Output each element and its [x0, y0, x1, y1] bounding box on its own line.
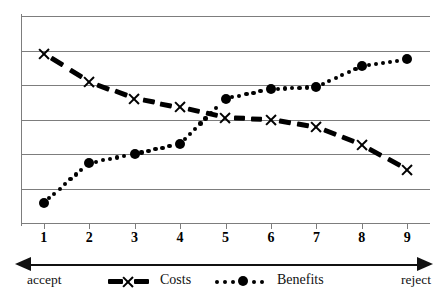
costs-dash: [114, 89, 128, 98]
costs-point-2: [82, 75, 96, 89]
costs-point-4: [173, 100, 187, 114]
plot-area: 123456789: [0, 0, 445, 240]
benefits-line-dot: [193, 127, 197, 131]
benefits-line-dot: [230, 95, 234, 99]
costs-dash: [50, 56, 65, 68]
costs-dash: [251, 116, 263, 122]
reject-label: reject: [401, 272, 431, 288]
benefits-line-dot: [101, 158, 105, 162]
accept-label: accept: [27, 272, 61, 288]
costs-dash: [188, 107, 201, 115]
benefits-point-2: [84, 158, 94, 168]
x-tick-3: [135, 223, 136, 229]
gridline-2: [21, 154, 430, 155]
costs-dash: [160, 101, 172, 108]
benefits-line-dot: [198, 121, 202, 125]
benefits-line-dot: [258, 89, 262, 93]
costs-dash: [341, 135, 355, 144]
benefits-line-dot: [52, 192, 56, 196]
costs-dash: [386, 156, 401, 167]
benefits-line-dot: [283, 86, 287, 90]
costs-point-3: [128, 92, 142, 106]
legend-benefits-dot-2-icon: [223, 280, 227, 284]
benefits-line-dot: [374, 62, 378, 66]
x-tick-7: [316, 223, 317, 229]
x-tick-5: [226, 223, 227, 229]
arrow-left-icon: [15, 257, 31, 271]
legend-benefits-dot-5-icon: [260, 280, 264, 284]
benefits-line-dot: [276, 87, 280, 91]
benefits-line-dot: [203, 116, 207, 120]
benefits-line-dot: [188, 132, 192, 136]
benefits-line-dot: [297, 86, 301, 90]
benefits-point-7: [311, 82, 321, 92]
benefits-line-dot: [139, 150, 143, 154]
gridline-5: [21, 51, 430, 52]
costs-point-6: [264, 113, 278, 127]
legend-costs-label: Costs: [160, 272, 191, 288]
benefits-line-dot: [58, 187, 62, 191]
gridline-1: [21, 189, 430, 190]
direction-arrow-line: [30, 264, 420, 266]
benefits-point-3: [130, 149, 140, 159]
arrow-right-icon: [417, 257, 433, 271]
benefits-line-dot: [305, 85, 309, 89]
legend-benefits-circle-icon: [238, 276, 248, 286]
benefits-line-dot: [340, 73, 344, 77]
benefits-line-dot: [115, 155, 119, 159]
costs-dash: [279, 118, 291, 125]
benefits-line-dot: [68, 177, 72, 181]
costs-dash: [96, 82, 110, 91]
x-tick-6: [271, 223, 272, 229]
benefits-line-dot: [146, 149, 150, 153]
benefits-line-dot: [381, 61, 385, 65]
costs-dash: [368, 146, 383, 157]
costs-dash: [296, 121, 308, 128]
costs-point-5: [219, 111, 233, 125]
benefits-line-dot: [244, 92, 248, 96]
y-axis-line: [21, 14, 22, 226]
benefits-line-dot: [160, 146, 164, 150]
x-tick-8: [362, 223, 363, 229]
benefits-line-dot: [334, 76, 338, 80]
costs-dash: [68, 67, 83, 79]
x-tick-9: [407, 223, 408, 229]
costs-point-9: [400, 163, 414, 177]
benefits-line-dot: [347, 70, 351, 74]
benefits-line-dot: [153, 147, 157, 151]
benefits-line-dot: [290, 86, 294, 90]
benefits-point-9: [402, 54, 412, 64]
benefits-line-dot: [251, 91, 255, 95]
costs-dash: [234, 116, 246, 122]
benefits-line-dot: [237, 94, 241, 98]
benefits-line-dot: [395, 59, 399, 63]
costs-dash: [323, 128, 337, 137]
benefits-line-dot: [167, 144, 171, 148]
benefits-line-dot: [321, 82, 325, 86]
benefits-point-6: [266, 84, 276, 94]
x-tick-2: [89, 223, 90, 229]
benefits-line-dot: [94, 160, 98, 164]
costs-point-8: [355, 138, 369, 152]
benefits-line-dot: [214, 106, 218, 110]
x-tick-1: [44, 223, 45, 229]
costs-dash: [142, 98, 154, 105]
costs-point-7: [309, 120, 323, 134]
benefits-point-1: [39, 198, 49, 208]
benefits-line-dot: [74, 172, 78, 176]
benefits-point-4: [175, 139, 185, 149]
benefits-line-dot: [367, 63, 371, 67]
benefits-point-5: [221, 94, 231, 104]
benefits-line-dot: [108, 157, 112, 161]
benefits-line-dot: [63, 182, 67, 186]
legend-benefits-dot-3-icon: [231, 280, 235, 284]
benefits-point-8: [357, 61, 367, 71]
legend-benefits-label: Benefits: [277, 272, 324, 288]
benefits-line-dot: [327, 79, 331, 83]
x-tick-4: [180, 223, 181, 229]
legend-benefits-dot-1-icon: [215, 280, 219, 284]
costs-point-1: [37, 47, 51, 61]
legend-costs-dash-right-icon: [134, 279, 149, 284]
chart-figure: 123456789 accept reject Costs Benefits: [0, 0, 445, 296]
benefits-line-dot: [122, 154, 126, 158]
